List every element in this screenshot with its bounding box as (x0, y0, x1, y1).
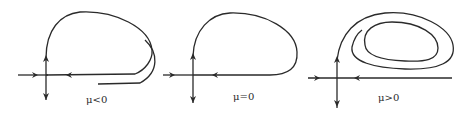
panel-label: μ<0 (86, 94, 107, 105)
unstable-manifold (46, 12, 152, 75)
panel-mu-positive: μ>0 (308, 13, 453, 108)
panel-mu-zero: μ=0 (163, 13, 297, 103)
panel-label: μ=0 (233, 91, 254, 102)
stable-manifold-outer (98, 40, 155, 84)
limit-cycle (365, 22, 438, 61)
panel-label: μ>0 (378, 92, 399, 103)
bifurcation-diagram: μ<0 μ=0 μ>0 (0, 0, 467, 116)
panel-mu-negative: μ<0 (18, 12, 155, 105)
homoclinic-orbit (193, 13, 297, 75)
